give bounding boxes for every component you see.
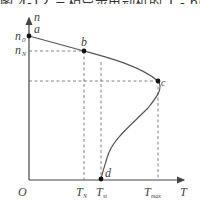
- label-b: b: [81, 35, 87, 49]
- y-axis-label: n: [34, 10, 40, 24]
- guide-lines: [29, 51, 158, 180]
- label-a: a: [34, 22, 40, 36]
- n0-label: n: [15, 29, 21, 43]
- point-c: [156, 79, 161, 84]
- point-b: [82, 49, 87, 54]
- Tst-subscript: st: [103, 193, 107, 199]
- label-c: c: [161, 77, 166, 88]
- TN-subscript: N: [82, 193, 88, 199]
- torque-speed-diagram: a b c d n T O n 0 n N T N T st T max: [0, 0, 200, 212]
- n0-subscript: 0: [22, 36, 26, 44]
- point-a: [27, 34, 32, 39]
- label-d: d: [105, 166, 112, 180]
- origin-label: O: [18, 185, 27, 199]
- torque-speed-curve: [29, 36, 160, 179]
- Tmax-subscript: max: [151, 193, 161, 199]
- nN-label: n: [15, 43, 21, 57]
- nN-subscript: N: [21, 51, 27, 57]
- point-d: [99, 177, 104, 182]
- x-axis-label: T: [180, 185, 188, 199]
